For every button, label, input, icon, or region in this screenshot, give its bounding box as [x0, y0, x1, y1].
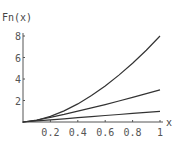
x-tick-label: 0.6 — [96, 127, 114, 138]
x-ticks: 0.20.40.60.81 — [41, 120, 163, 138]
y-tick-label: 4 — [15, 74, 21, 85]
x-axis-label: x — [166, 117, 172, 128]
curve-top — [23, 36, 160, 122]
curves — [23, 36, 160, 122]
y-tick-label: 6 — [15, 53, 21, 64]
chart: Fn(x) x 2468 0.20.40.60.81 — [0, 0, 185, 145]
x-tick-label: 0.8 — [124, 127, 142, 138]
y-tick-label: 2 — [15, 96, 21, 107]
x-tick-label: 0.2 — [41, 127, 59, 138]
y-axis-label: Fn(x) — [2, 12, 32, 23]
curve-bottom — [23, 111, 160, 122]
x-tick-label: 0.4 — [69, 127, 87, 138]
x-tick-label: 1 — [157, 127, 163, 138]
y-tick-label: 8 — [15, 31, 21, 42]
